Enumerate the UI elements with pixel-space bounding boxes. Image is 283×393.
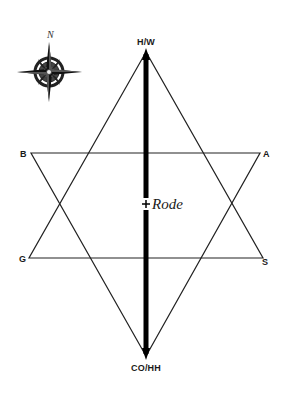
bottom-arrowhead (142, 348, 150, 360)
center-label: Rode (151, 196, 183, 212)
center-marker (142, 200, 150, 208)
vertex-label-top: H/W (137, 37, 155, 47)
top-arrowhead (142, 48, 150, 60)
vertex-label-bottom: CO/HH (131, 363, 161, 373)
compass-north-label: N (46, 29, 55, 40)
compass-rose-icon: N (17, 29, 82, 102)
vertex-label-lower-left: G (19, 254, 26, 264)
vertex-label-lower-right: S (262, 257, 268, 267)
hexagram-diagram: N Rode H/W CO/HH B A G S (0, 0, 283, 393)
vertex-label-upper-left: B (20, 149, 27, 159)
vertex-label-upper-right: A (263, 149, 270, 159)
